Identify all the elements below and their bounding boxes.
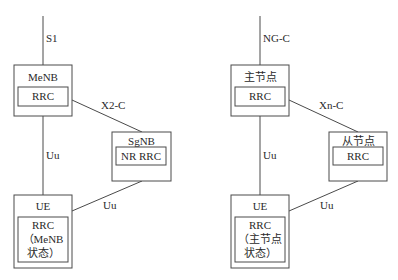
- left-secondary-ue-link-label: Uu: [103, 199, 116, 212]
- left-core-link-label: S1: [46, 32, 58, 45]
- left-secondary-title: SgNB: [112, 135, 171, 148]
- right-core-link-label: NG-C: [263, 32, 290, 45]
- right-ue-rrc-line1: RRC: [235, 219, 285, 232]
- left-master-rrc-label: RRC: [18, 90, 68, 103]
- left-ue-title: UE: [14, 200, 72, 213]
- right-master-title: 主节点: [231, 71, 289, 84]
- left-ue-rrc-line2: （MeNB: [16, 233, 70, 246]
- left-secondary-rrc-label: NR RRC: [116, 150, 166, 163]
- right-ue-title: UE: [231, 200, 289, 213]
- right-secondary-rrc-label: RRC: [333, 150, 383, 163]
- right-ue-rrc-line2: （主节点: [233, 233, 287, 246]
- right-master-ue-link-label: Uu: [263, 149, 276, 162]
- right-secondary-ue-link-label: Uu: [320, 199, 333, 212]
- right-master-rrc-label: RRC: [235, 90, 285, 103]
- left-ue-rrc-line3: 状态）: [18, 247, 68, 260]
- left-master-title: MeNB: [14, 71, 72, 84]
- right-ue-rrc-line3: 状态）: [235, 247, 285, 260]
- right-secondary-title: 从节点: [329, 135, 387, 148]
- left-x2c-label: X2-C: [101, 99, 125, 112]
- left-ue-rrc-line1: RRC: [18, 219, 68, 232]
- right-xnc-label: Xn-C: [319, 99, 343, 112]
- left-master-ue-link-label: Uu: [46, 149, 59, 162]
